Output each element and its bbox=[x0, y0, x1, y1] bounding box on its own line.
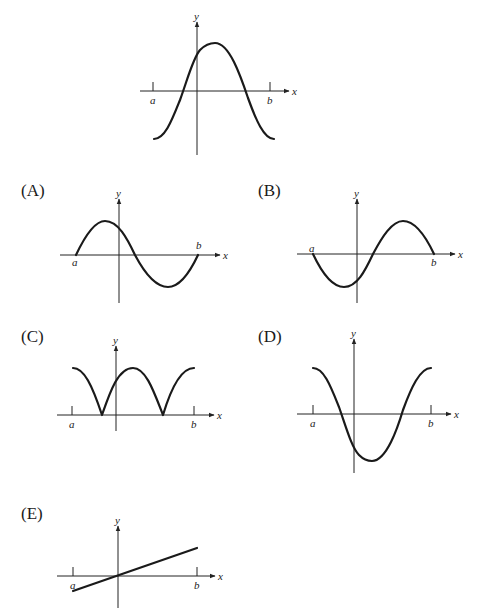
option-e[interactable]: (E) x y a b bbox=[21, 504, 223, 608]
option-b[interactable]: (B) x y a b bbox=[258, 181, 463, 303]
function-curve bbox=[76, 221, 198, 287]
tick-label-b: b bbox=[428, 417, 434, 429]
function-curve bbox=[73, 368, 194, 415]
tick-label-a: a bbox=[309, 242, 315, 254]
y-axis-label: y bbox=[353, 187, 359, 199]
y-axis-label: y bbox=[114, 514, 120, 526]
tick-label-a: a bbox=[150, 94, 156, 106]
y-axis-label: y bbox=[112, 334, 118, 346]
tick-label-b: b bbox=[194, 579, 200, 591]
tick-label-a: a bbox=[310, 417, 316, 429]
option-label-d: (D) bbox=[258, 327, 282, 346]
tick-label-a: a bbox=[72, 256, 78, 268]
y-axis-label: y bbox=[350, 327, 356, 339]
x-axis-label: x bbox=[217, 570, 223, 582]
option-c[interactable]: (C) x y a b bbox=[21, 327, 222, 431]
option-label-a: (A) bbox=[21, 181, 45, 200]
tick-label-b: b bbox=[191, 418, 197, 430]
y-axis-label: y bbox=[193, 10, 199, 22]
x-axis-label: x bbox=[453, 408, 459, 420]
x-axis-label: x bbox=[457, 248, 463, 260]
main-graph: a b x y bbox=[140, 10, 297, 155]
option-label-b: (B) bbox=[258, 181, 281, 200]
tick-label-b: b bbox=[431, 256, 437, 268]
function-line bbox=[73, 548, 197, 591]
option-d[interactable]: (D) x y a b bbox=[258, 327, 459, 473]
y-axis-label: y bbox=[115, 187, 121, 199]
tick-label-b: b bbox=[267, 94, 273, 106]
tick-label-a: a bbox=[69, 418, 75, 430]
x-axis-label: x bbox=[222, 249, 228, 261]
option-label-e: (E) bbox=[21, 504, 43, 523]
figure-canvas: a b x y (A) x y a b (B) x y a b (C) x y … bbox=[0, 0, 480, 608]
x-axis-label: x bbox=[216, 409, 222, 421]
option-label-c: (C) bbox=[21, 327, 44, 346]
tick-label-b: b bbox=[196, 239, 202, 251]
x-axis-label: x bbox=[291, 85, 297, 97]
option-a[interactable]: (A) x y a b bbox=[21, 181, 228, 303]
